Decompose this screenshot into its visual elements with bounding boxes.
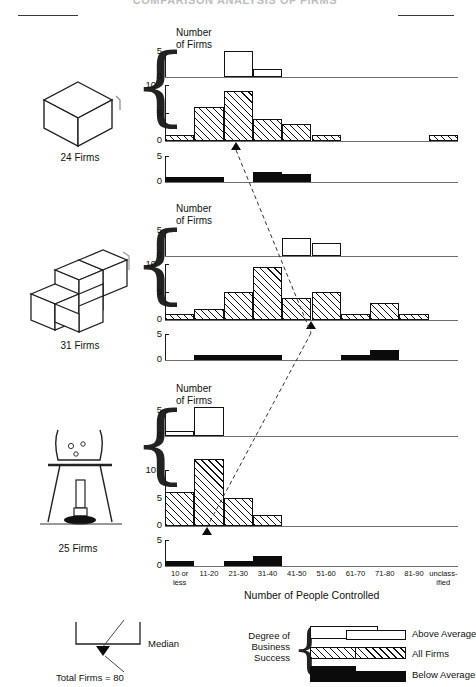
cube-icon xyxy=(40,78,120,148)
x-axis-label-10: unclass-ified xyxy=(426,570,461,587)
panel-2-below-ylabel-0: 0 xyxy=(146,354,162,363)
panel-3-above-tick-5 xyxy=(165,410,169,411)
bar-panel-1-all-41-50 xyxy=(282,124,311,141)
panel-3-above-ylabel-5: 5 xyxy=(146,405,162,414)
panel-2-above-ylabel-5: 5 xyxy=(146,225,162,234)
panel-1-all-tick-10 xyxy=(165,85,169,86)
panel-2-below-yaxis xyxy=(165,334,166,360)
bar-panel-1-above-31-40 xyxy=(253,69,282,77)
legend-label-all: All Firms xyxy=(412,648,449,659)
group-label-3: 25 Firms xyxy=(28,543,128,554)
panel-2-below-baseline xyxy=(165,360,458,361)
panel-1-below-baseline xyxy=(165,182,458,183)
panel-1-all-baseline xyxy=(165,141,458,142)
panel-2-below-ylabel-5: 5 xyxy=(146,329,162,338)
bar-panel-2-all-81-90 xyxy=(399,314,428,320)
bar-panel-1-all-51-60 xyxy=(312,135,341,141)
panel-3-below-baseline xyxy=(165,566,458,567)
median-marker-panel-3 xyxy=(202,527,212,535)
panel-1-below-ylabel-5: 5 xyxy=(146,151,162,160)
median-marker-panel-1 xyxy=(231,142,241,150)
panel-1-above-yaxis xyxy=(165,51,166,77)
median-legend-label: Median xyxy=(148,638,179,649)
bar-panel-3-all-31-40 xyxy=(253,515,282,526)
panel-2-all-tick-5 xyxy=(165,292,169,293)
stacked-cubes-icon xyxy=(25,258,133,340)
panel-3-all-ylabel-0: 0 xyxy=(146,520,162,529)
bar-panel-1-all-31-40 xyxy=(253,119,282,141)
total-firms-label: Total Firms = 80 xyxy=(56,672,124,683)
bar-panel-2-below-11-20 xyxy=(194,355,223,360)
bar-panel-2-below-71-80 xyxy=(370,350,399,360)
panel-2-all-ylabel-10: 10 xyxy=(140,259,156,268)
panel-2-above-yaxis xyxy=(165,230,166,256)
panel-1-all-tick-5 xyxy=(165,113,169,114)
bar-panel-2-all-31-40 xyxy=(253,267,282,320)
bar-panel-1-below-11-20 xyxy=(194,177,223,182)
bar-panel-2-all-41-50 xyxy=(282,298,311,320)
bar-panel-3-below-31-40 xyxy=(253,556,282,566)
x-axis-title: Number of People Controlled xyxy=(244,589,379,601)
panel-3-above-baseline xyxy=(165,436,458,437)
bar-panel-1-below-10-or-less xyxy=(165,177,194,182)
bar-panel-2-below-21-30 xyxy=(224,355,253,360)
bar-panel-2-all-10-or-less xyxy=(165,314,194,320)
bar-panel-2-below-61-70 xyxy=(341,355,370,360)
bar-panel-3-all-10-or-less xyxy=(165,492,194,526)
median-marker-panel-2 xyxy=(306,321,316,329)
panel-2-all-ylabel-5: 5 xyxy=(146,287,162,296)
bar-panel-1-all-10-or-less xyxy=(165,135,194,141)
legend-label-above: Above Average xyxy=(412,628,476,639)
bar-panel-2-all-71-80 xyxy=(370,303,399,320)
panel-1-above-ylabel-5: 5 xyxy=(146,46,162,55)
group-label-2: 31 Firms xyxy=(30,340,130,351)
bar-panel-3-above-11-20 xyxy=(194,407,223,436)
panel-3-all-ylabel-5: 5 xyxy=(146,493,162,502)
bar-panel-3-below-21-30 xyxy=(224,561,253,566)
bar-panel-2-all-61-70 xyxy=(341,314,370,320)
panel-1-below-ylabel-0: 0 xyxy=(146,176,162,185)
legend-label-below: Below Average xyxy=(412,669,475,680)
panel-1-above-tick-5 xyxy=(165,51,169,52)
panel-1-below-tick-5 xyxy=(165,156,169,157)
panel-3-below-ylabel-0: 0 xyxy=(146,560,162,569)
panel-3-below-ylabel-5: 5 xyxy=(146,535,162,544)
bar-panel-1-below-31-40 xyxy=(253,172,282,182)
legend-swatch-above-2 xyxy=(346,630,406,640)
panel-3-above-ylabel-0: 0 xyxy=(146,430,162,439)
bar-panel-3-all-11-20 xyxy=(194,459,223,526)
panel-3-all-tick-10 xyxy=(165,470,169,471)
group-label-1: 24 Firms xyxy=(30,152,130,163)
legend-group-title: Degree of Business Success xyxy=(228,630,290,663)
bar-panel-2-below-31-40 xyxy=(253,355,282,360)
bar-panel-2-all-21-30 xyxy=(224,292,253,320)
panel-3-below-tick-5 xyxy=(165,540,169,541)
bar-panel-1-above-21-30 xyxy=(224,51,253,77)
panel-1-all-ylabel-10: 10 xyxy=(140,80,156,89)
panel-2-below-tick-5 xyxy=(165,334,169,335)
panel-1-above-baseline xyxy=(165,77,458,78)
bar-panel-3-above-10-or-less xyxy=(165,431,194,436)
panel-2-all-ylabel-0: 0 xyxy=(146,314,162,323)
bar-panel-2-above-51-60 xyxy=(312,243,341,256)
bar-panel-1-all-21-30 xyxy=(224,91,253,141)
panel-2-above-baseline xyxy=(165,256,458,257)
bar-panel-3-all-21-30 xyxy=(224,498,253,526)
panel-3-all-ylabel-10: 10 xyxy=(140,465,156,474)
legend-swatch-all-2 xyxy=(310,647,356,659)
bar-panel-2-above-41-50 xyxy=(282,238,311,256)
bar-panel-2-all-11-20 xyxy=(194,309,223,320)
panel-1-all-ylabel-5: 5 xyxy=(146,108,162,117)
panel-2-all-tick-10 xyxy=(165,264,169,265)
panel-2-above-tick-5 xyxy=(165,230,169,231)
panel-1-all-ylabel-0: 0 xyxy=(146,135,162,144)
bar-panel-1-below-41-50 xyxy=(282,174,311,182)
legend-swatch-below-2 xyxy=(310,666,356,682)
bar-panel-1-all-11-20 xyxy=(194,107,223,141)
bar-panel-2-all-51-60 xyxy=(312,292,341,320)
bar-panel-3-below-10-or-less xyxy=(165,561,194,566)
bar-panel-1-all-unclassified xyxy=(429,135,458,141)
beaker-burner-icon xyxy=(38,424,124,534)
